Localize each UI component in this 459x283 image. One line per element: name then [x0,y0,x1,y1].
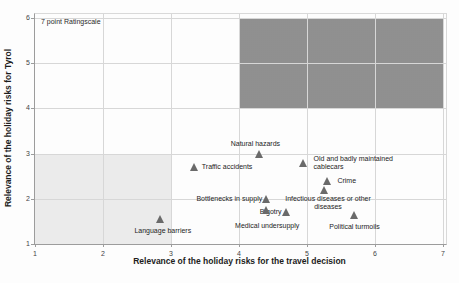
y-axis-tick-label: 6 [9,14,30,21]
x-axis-tick [307,244,308,247]
y-axis-tick [31,199,34,200]
data-point-marker [323,177,331,185]
gridline-x-2 [103,14,104,244]
data-point-marker [299,159,307,167]
gridline-x-6 [375,14,376,244]
data-point-label: Medical undersupply [235,222,299,230]
x-axis-tick [443,244,444,247]
y-axis-tick [31,154,34,155]
y-axis-title: Relevance of the holiday risks for Tyrol [3,13,15,243]
y-axis-tick-label: 4 [9,104,30,111]
gridline-x-4 [239,14,240,244]
data-point-label: Political turmoils [329,223,380,231]
data-point-label: Old and badly maintained cablecars [314,155,393,171]
y-axis-tick [31,244,34,245]
gridline-y-4 [35,108,446,109]
risk-scatter-chart: Relevance of the holiday risks for Tyrol… [0,0,459,283]
data-point-marker [320,186,328,194]
y-axis-tick-label: 1 [9,240,30,247]
gridline-y-5 [35,63,446,64]
data-point-marker [255,150,263,158]
y-axis-tick-label: 2 [9,195,30,202]
data-point-label: Natural hazards [231,140,280,148]
data-point-marker [282,208,290,216]
x-axis-tick [103,244,104,247]
y-axis-tick [31,63,34,64]
data-point-label: Language barriers [134,227,191,235]
x-axis-tick [375,244,376,247]
data-point-marker [262,195,270,203]
data-point-label: Crime [337,177,356,185]
data-point-marker [156,215,164,223]
data-point-marker [190,163,198,171]
data-point-marker [350,211,358,219]
gridline-x-3 [171,14,172,244]
x-axis-tick [35,244,36,247]
data-point-label: Traffic accidents [202,163,253,171]
y-axis-tick-label: 3 [9,150,30,157]
data-point-marker [262,206,270,214]
x-axis-tick [239,244,240,247]
y-axis-tick-label: 5 [9,59,30,66]
ratingscale-annotation: 7 point Ratingscale [41,18,101,25]
data-point-label: Bottlenecks in supply [196,195,262,203]
plot-area: 7 point Ratingscale 1234567123456Natural… [34,13,447,245]
x-axis-tick [171,244,172,247]
y-axis-tick [31,18,34,19]
x-axis-title: Relevance of the holiday risks for the t… [34,256,445,266]
data-point-label: Infectious diseases or other diseases [285,195,371,211]
gridline-y-6 [35,18,446,19]
gridline-x-7 [443,14,444,244]
y-axis-tick [31,108,34,109]
